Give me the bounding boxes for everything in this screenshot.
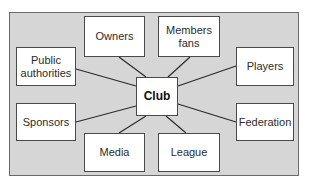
node-club: Club	[136, 77, 178, 116]
edge-club-members-fans	[168, 57, 190, 77]
node-federation: Federation	[236, 103, 294, 141]
node-sponsors: Sponsors	[16, 103, 76, 141]
edge-club-sponsors	[76, 106, 136, 122]
node-players: Players	[236, 47, 294, 86]
edge-club-league	[166, 116, 186, 133]
edge-club-public-authorities	[76, 69, 136, 86]
node-members-fans: Members fans	[158, 16, 220, 57]
node-public-authorities: Public authorities	[16, 47, 76, 86]
edge-club-owners	[119, 57, 146, 77]
edge-club-players	[178, 66, 236, 86]
edge-club-media	[119, 116, 146, 133]
node-media: Media	[84, 133, 145, 172]
node-league: League	[158, 133, 220, 172]
node-owners: Owners	[84, 16, 145, 57]
edge-club-federation	[178, 104, 236, 122]
